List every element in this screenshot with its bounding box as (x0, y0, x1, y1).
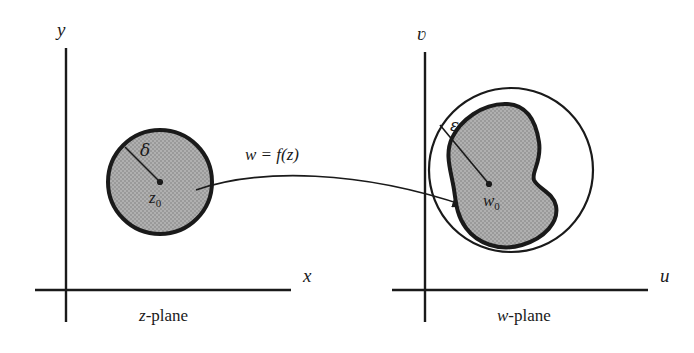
complex-mapping-figure: y x δ z0 z-plane w = f(z) ʋ u ε w0 w-pla… (0, 0, 694, 353)
z-plane-caption-var: z (139, 306, 146, 325)
w0-point-label: w0 (483, 192, 500, 212)
z0-point-label: z0 (149, 189, 161, 209)
w-plane-caption: w-plane (497, 307, 551, 324)
w-plane-u-axis-label: u (660, 266, 670, 285)
z0-subscript: 0 (156, 197, 162, 209)
w-plane-caption-var: w (497, 306, 508, 325)
delta-radius-label: δ (140, 142, 150, 159)
z-plane-caption: z-plane (139, 307, 188, 324)
z-plane-caption-suffix: -plane (146, 306, 188, 325)
w-plane-caption-suffix: -plane (508, 306, 550, 325)
figure-canvas (0, 0, 694, 353)
delta-disk (108, 130, 212, 234)
z-plane-x-axis-label: x (303, 266, 311, 285)
z-plane-y-axis-label: y (57, 20, 65, 39)
w0-base: w (483, 191, 494, 210)
mapping-equation-label: w = f(z) (245, 146, 299, 163)
z0-base: z (149, 188, 156, 207)
epsilon-radius-label: ε (450, 117, 459, 134)
w-plane-v-axis-label: ʋ (417, 24, 426, 43)
w0-subscript: 0 (494, 200, 500, 212)
